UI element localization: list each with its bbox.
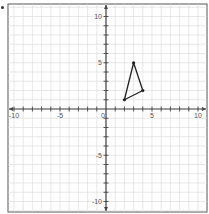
svg-text:0: 0 bbox=[101, 112, 105, 119]
svg-text:-5: -5 bbox=[96, 152, 102, 159]
svg-text:-5: -5 bbox=[57, 112, 63, 119]
svg-text:-10: -10 bbox=[92, 198, 102, 205]
vertex-point bbox=[132, 61, 135, 64]
svg-text:-10: -10 bbox=[9, 112, 19, 119]
coordinate-plane: -10-50510-10-5510 bbox=[0, 0, 209, 214]
svg-text:5: 5 bbox=[98, 59, 102, 66]
svg-text:5: 5 bbox=[150, 112, 154, 119]
vertex-point bbox=[123, 98, 126, 101]
vertex-point bbox=[141, 89, 144, 92]
svg-text:10: 10 bbox=[194, 112, 202, 119]
svg-text:10: 10 bbox=[94, 13, 102, 20]
